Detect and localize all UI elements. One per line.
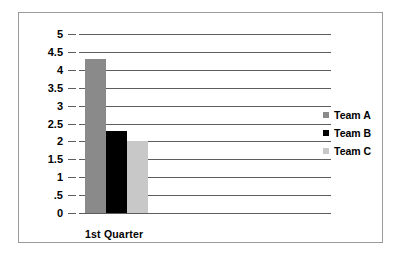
y-axis-tick-label: 3 — [57, 100, 63, 111]
legend-item-label: Team B — [334, 128, 371, 139]
y-axis-tick — [68, 52, 76, 53]
gridline — [79, 213, 331, 214]
y-axis-tick — [68, 159, 76, 160]
y-axis-tick — [68, 213, 76, 214]
chart-legend: Team ATeam BTeam C — [323, 108, 393, 162]
y-axis-tick — [68, 34, 76, 35]
legend-item-label: Team C — [334, 146, 371, 157]
legend-item[interactable]: Team C — [323, 144, 393, 158]
bar-team-a[interactable] — [85, 59, 106, 213]
y-axis-tick — [68, 88, 76, 89]
y-axis-tick-label: 2 — [57, 136, 63, 147]
chart-frame: 54.543.532.521.51.50 1st Quarter Team AT… — [18, 12, 383, 243]
y-axis-tick-label: 4 — [57, 64, 63, 75]
y-axis-tick — [68, 70, 76, 71]
legend-swatch-icon — [323, 130, 329, 136]
y-axis-tick — [68, 177, 76, 178]
y-axis-tick-label: 1.5 — [48, 154, 63, 165]
y-axis-tick-label: .5 — [54, 190, 63, 201]
y-axis-tick — [68, 195, 76, 196]
y-axis-tick — [68, 124, 76, 125]
x-axis-category-label: 1st Quarter — [85, 228, 143, 240]
y-axis-tick — [68, 106, 76, 107]
y-axis-tick-label: 2.5 — [48, 118, 63, 129]
legend-item[interactable]: Team A — [323, 108, 393, 122]
y-axis-tick-label: 4.5 — [48, 46, 63, 57]
y-axis-tick-label: 3.5 — [48, 82, 63, 93]
y-axis-tick-label: 0 — [57, 208, 63, 219]
legend-swatch-icon — [323, 148, 329, 154]
bar-team-c[interactable] — [127, 141, 148, 213]
y-axis-tick — [68, 141, 76, 142]
y-axis-tick-label: 5 — [57, 29, 63, 40]
bars-group — [79, 34, 331, 213]
y-axis-tick-label: 1 — [57, 172, 63, 183]
legend-swatch-icon — [323, 112, 329, 118]
legend-item[interactable]: Team B — [323, 126, 393, 140]
bar-team-b[interactable] — [106, 131, 127, 213]
plot-area: 54.543.532.521.51.50 — [79, 34, 331, 213]
legend-item-label: Team A — [334, 110, 371, 121]
